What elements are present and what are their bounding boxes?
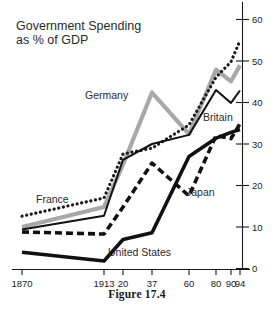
series-label-britain: Britain <box>203 111 233 123</box>
y-tick-label: 10 <box>252 222 263 233</box>
y-tick-label: 60 <box>252 14 263 25</box>
y-tick-label: 0 <box>252 263 257 274</box>
chart-canvas: 0102030405060 18701913203760809094 Gover… <box>0 0 274 309</box>
chart-title-line2: as % of GDP <box>16 33 88 47</box>
y-tick-label: 40 <box>252 97 263 108</box>
y-tick-label: 50 <box>252 56 263 67</box>
y-tick-label: 30 <box>252 139 263 150</box>
chart-title: Government Spending as % of GDP <box>16 19 141 47</box>
y-tick-label: 20 <box>252 180 263 191</box>
series-layer <box>22 41 240 261</box>
figure-chart: 0102030405060 18701913203760809094 Gover… <box>0 0 274 309</box>
figure-caption: Figure 17.4 <box>0 288 274 300</box>
series-label-germany: Germany <box>85 89 129 101</box>
series-label-japan: Japan <box>186 186 215 198</box>
x-axis-ticks: 18701913203760809094 <box>11 270 245 290</box>
series-label-united-states: United States <box>108 246 171 258</box>
series-label-france: France <box>36 193 69 205</box>
y-axis-ticks: 0102030405060 <box>236 14 263 274</box>
chart-title-line1: Government Spending <box>16 19 141 33</box>
